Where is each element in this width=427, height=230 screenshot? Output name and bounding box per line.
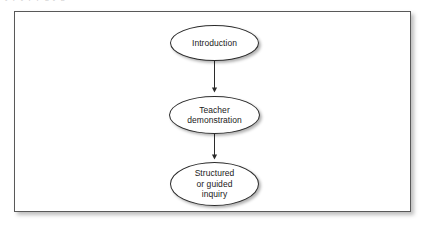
cropped-text-artifact-glyphs: i y p y p p g y g <box>0 0 66 1</box>
cropped-text-artifact: i y p y p p g y g <box>0 0 427 6</box>
flow-node-introduction: Introduction <box>170 25 259 61</box>
flow-node-structured-inquiry-label: Structured or guided inquiry <box>195 168 235 200</box>
flow-node-teacher-demonstration: Teacher demonstration <box>169 96 260 134</box>
flow-node-structured-inquiry: Structured or guided inquiry <box>170 162 259 206</box>
flow-node-introduction-label: Introduction <box>192 38 237 49</box>
flow-node-teacher-demonstration-label: Teacher demonstration <box>187 105 242 126</box>
